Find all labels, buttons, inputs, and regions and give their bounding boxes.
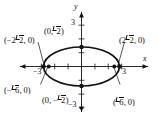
label-covertex-top-radicand: 2 — [56, 26, 61, 36]
label-focus-left-radicand: 6 — [15, 85, 20, 95]
label-focus-right-close: , 0) — [124, 97, 135, 107]
label-focus-left: (−6, 0) — [4, 84, 30, 94]
ellipse-figure: x y −3 3 3 −3 (−22, 0) (22, 0) (0,2) (0,… — [0, 0, 158, 121]
point-covertex-bottom — [79, 84, 83, 88]
sqrt-icon: 2 — [126, 34, 134, 44]
label-focus-right-radicand: 6 — [119, 97, 124, 107]
y-tick-label-neg3: −3 — [68, 101, 77, 109]
point-covertex-top — [79, 45, 83, 49]
label-focus-right: (6, 0) — [113, 96, 135, 106]
y-axis — [79, 12, 84, 112]
label-focus-left-open: (− — [4, 85, 11, 95]
label-vertex-left-open: (−2 — [4, 35, 16, 45]
x-axis-label: x — [143, 55, 147, 63]
label-vertex-right: (22, 0) — [119, 34, 145, 44]
y-axis-label: y — [74, 3, 78, 11]
label-covertex-bottom-close: ) — [66, 95, 69, 105]
y-tick-label-pos3: 3 — [71, 19, 75, 27]
label-vertex-right-radicand: 2 — [129, 35, 134, 45]
x-tick-label-neg3: −3 — [33, 68, 42, 76]
sqrt-icon: 2 — [53, 25, 61, 35]
sqrt-icon: 2 — [58, 94, 66, 104]
sqrt-icon: 6 — [116, 96, 124, 106]
label-vertex-left: (−22, 0) — [4, 34, 35, 44]
label-vertex-left-radicand: 2 — [19, 35, 24, 45]
label-covertex-top-close: ) — [61, 26, 64, 36]
point-focus-left — [47, 65, 51, 69]
sqrt-icon: 2 — [16, 34, 24, 44]
label-vertex-right-close: , 0) — [134, 35, 145, 45]
label-covertex-bottom-radicand: 2 — [61, 95, 66, 105]
label-covertex-top: (0,2) — [44, 25, 64, 35]
label-covertex-bottom-open: (0, − — [42, 95, 58, 105]
label-focus-left-close: , 0) — [19, 85, 30, 95]
point-vertex-right — [117, 64, 121, 68]
label-covertex-bottom: (0, −2) — [42, 94, 68, 104]
label-vertex-left-close: , 0) — [24, 35, 35, 45]
point-vertex-left — [41, 64, 45, 68]
point-focus-right — [112, 65, 116, 69]
x-tick-label-pos3: 3 — [122, 68, 126, 76]
sqrt-icon: 6 — [11, 84, 19, 94]
